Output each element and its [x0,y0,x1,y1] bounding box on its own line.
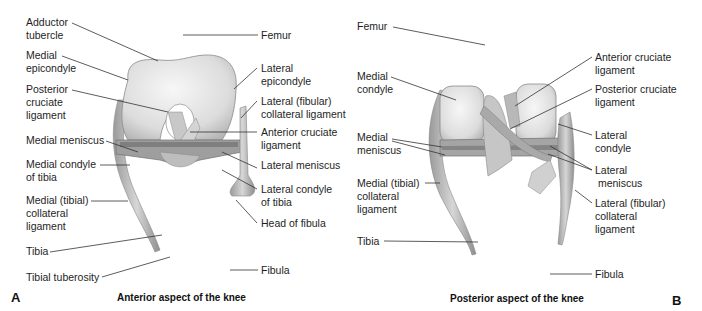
label-medial-collateral-ligament-b: Medial (tibial) collateral ligament [357,177,419,216]
label-femur-b: Femur [357,20,387,33]
label-posterior-cruciate-ligament: Posterior cruciate ligament [26,83,68,122]
label-medial-condyle: Medial condyle [357,70,393,96]
label-medial-epicondyle: Medial epicondyle [26,49,76,75]
label-adductor-tubercle: Adductor tubercle [26,16,68,42]
label-lateral-meniscus-b: Lateral meniscus [595,164,642,190]
label-femur-a: Femur [261,29,291,42]
label-tibia-b: Tibia [357,235,379,248]
panel-letter-a: A [11,290,20,305]
label-posterior-cruciate-ligament-b: Posterior cruciate ligament [595,83,677,109]
caption-posterior: Posterior aspect of the knee [450,293,584,304]
panel-letter-b: B [672,293,681,308]
label-anterior-cruciate-ligament-b: Anterior cruciate ligament [595,51,671,77]
posterior-knee-drawing [429,84,574,255]
anterior-knee-drawing [113,55,255,252]
label-lateral-condyle-of-tibia: Lateral condyle of tibia [261,183,332,209]
label-lateral-collateral-ligament-a: Lateral (fibular) collateral ligament [261,95,346,121]
label-head-of-fibula: Head of fibula [261,217,326,230]
label-tibia: Tibia [26,245,48,258]
caption-anterior: Anterior aspect of the knee [117,292,246,303]
label-medial-condyle-of-tibia: Medial condyle of tibia [26,158,96,184]
label-fibula-a: Fibula [261,264,290,277]
label-tibial-tuberosity: Tibial tuberosity [26,271,99,284]
label-lateral-meniscus-a: Lateral meniscus [261,159,340,172]
label-fibula-b: Fibula [595,268,624,281]
label-anterior-cruciate-ligament-a: Anterior cruciate ligament [261,126,337,152]
label-medial-meniscus-b: Medial meniscus [357,131,401,157]
label-medial-collateral-ligament: Medial (tibial) collateral ligament [26,194,88,233]
label-lateral-collateral-ligament-b: Lateral (fibular) collateral ligament [595,197,666,236]
label-lateral-epicondyle: Lateral epicondyle [261,62,311,88]
knee-illustration [0,0,702,311]
label-medial-meniscus: Medial meniscus [26,134,104,147]
label-lateral-condyle: Lateral condyle [595,129,631,155]
